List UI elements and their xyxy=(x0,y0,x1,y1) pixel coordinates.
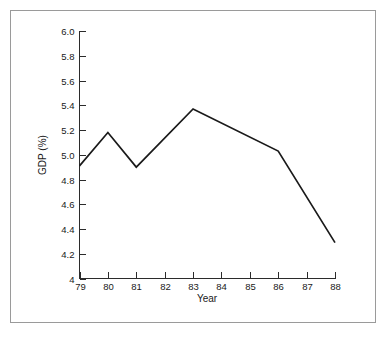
y-tick-label: 5.6 xyxy=(61,76,74,87)
y-tick-label: 5.4 xyxy=(61,100,74,111)
y-tick-label: 5.2 xyxy=(61,125,74,136)
figure-container: 44.24.44.64.85.05.25.45.65.86.0 79808182… xyxy=(0,0,389,338)
y-axis-ticks: 44.24.44.64.85.05.25.45.65.86.0 xyxy=(61,26,86,285)
x-tick-label: 81 xyxy=(131,281,142,292)
x-tick-label: 87 xyxy=(302,281,313,292)
x-axis-ticks: 79808182838485868788 xyxy=(75,272,341,292)
y-axis-title: GDP (%) xyxy=(37,135,48,175)
x-tick-label: 84 xyxy=(216,281,227,292)
data-series-line xyxy=(80,109,336,243)
x-tick-label: 85 xyxy=(245,281,256,292)
y-tick-label: 4.8 xyxy=(61,175,74,186)
y-tick-label: 6.0 xyxy=(61,26,74,37)
y-tick-label: 4 xyxy=(69,274,74,285)
x-tick-label: 80 xyxy=(103,281,114,292)
x-tick-label: 83 xyxy=(188,281,199,292)
y-tick-label: 5.0 xyxy=(61,150,74,161)
y-tick-label: 4.6 xyxy=(61,199,74,210)
y-tick-label: 4.2 xyxy=(61,249,74,260)
line-chart: 44.24.44.64.85.05.25.45.65.86.0 79808182… xyxy=(0,0,389,338)
x-axis-title: Year xyxy=(197,293,218,304)
y-tick-label: 5.8 xyxy=(61,51,74,62)
x-tick-label: 88 xyxy=(330,281,341,292)
x-tick-label: 82 xyxy=(160,281,171,292)
x-tick-label: 86 xyxy=(273,281,284,292)
y-tick-label: 4.4 xyxy=(61,224,74,235)
x-tick-label: 79 xyxy=(75,281,86,292)
